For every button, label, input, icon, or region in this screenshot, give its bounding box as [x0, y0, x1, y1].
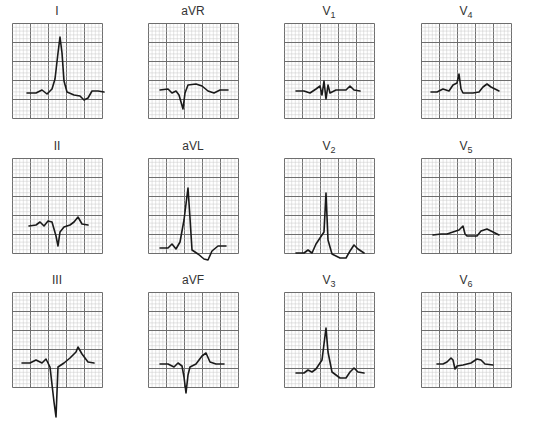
lead-label-subscript: 2: [331, 145, 336, 155]
lead-label: V5: [421, 139, 511, 155]
lead-label: aVL: [148, 139, 238, 153]
lead-label-subscript: 5: [468, 145, 473, 155]
lead-label-text: V: [459, 139, 467, 153]
ecg-waveform: [437, 358, 493, 369]
lead-label-text: I: [55, 4, 58, 18]
ecg-grid: [148, 292, 240, 422]
lead-label: V6: [421, 273, 511, 289]
ecg-grid: [284, 23, 376, 158]
lead-label-subscript: 1: [331, 10, 336, 20]
lead-label-text: aVL: [182, 139, 203, 153]
lead-label-text: II: [54, 139, 61, 153]
ecg-grid: [284, 292, 376, 422]
lead-label: II: [12, 139, 102, 153]
lead-label: V1: [284, 4, 374, 20]
ecg-grid: [421, 23, 513, 158]
lead-label-text: V: [322, 4, 330, 18]
lead-label: aVF: [148, 273, 238, 287]
ecg-grid: [12, 292, 104, 422]
lead-label-subscript: 6: [468, 279, 473, 289]
lead-label: aVR: [148, 4, 238, 18]
lead-label-text: V: [459, 4, 467, 18]
ecg-grid: [12, 23, 104, 158]
lead-label: III: [12, 273, 102, 287]
lead-label: I: [12, 4, 102, 18]
lead-label-subscript: 3: [331, 279, 336, 289]
lead-label-text: aVF: [182, 273, 204, 287]
lead-label-text: V: [322, 139, 330, 153]
lead-label-text: III: [52, 273, 62, 287]
lead-label: V4: [421, 4, 511, 20]
ecg-waveform: [22, 347, 94, 417]
lead-label: V3: [284, 273, 374, 289]
lead-label-text: V: [459, 273, 467, 287]
lead-label-text: aVR: [181, 4, 204, 18]
lead-label-text: V: [322, 273, 330, 287]
ecg-waveform: [296, 81, 360, 99]
lead-label-subscript: 4: [468, 10, 473, 20]
lead-label: V2: [284, 139, 374, 155]
ecg-grid: [421, 292, 513, 422]
ecg-grid: [148, 23, 240, 158]
